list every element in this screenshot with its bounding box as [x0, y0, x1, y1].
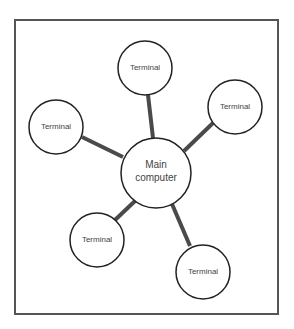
hub-main-computer: Main computer: [121, 138, 191, 208]
hub-label-line2: computer: [135, 172, 177, 183]
terminal-label: Terminal: [41, 122, 71, 131]
terminal-right: Terminal: [208, 80, 262, 134]
terminal-label: Terminal: [188, 267, 218, 276]
terminal-left: Terminal: [29, 100, 83, 154]
star-network-diagram: Terminal Terminal Terminal Terminal Term…: [0, 0, 294, 329]
terminal-label: Terminal: [82, 235, 112, 244]
terminal-label: Terminal: [130, 63, 160, 72]
terminal-label: Terminal: [220, 102, 250, 111]
hub-label-line1: Main: [145, 159, 167, 170]
terminal-bottom-left: Terminal: [70, 213, 124, 267]
terminal-bottom-right: Terminal: [176, 245, 230, 299]
terminal-top: Terminal: [118, 41, 172, 95]
